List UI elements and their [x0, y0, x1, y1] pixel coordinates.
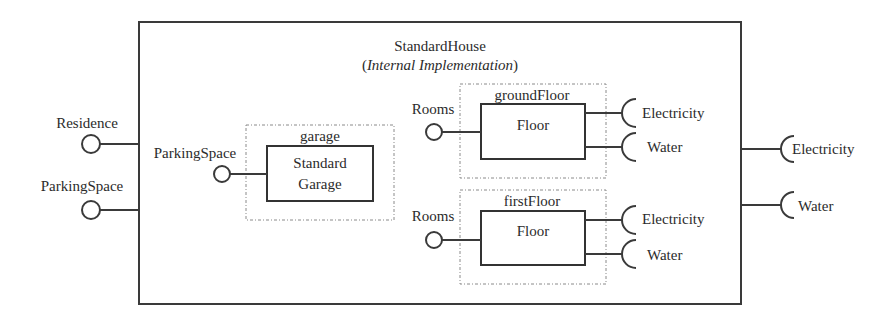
lollipop-interface-icon [426, 124, 442, 140]
port-label: ParkingSpace [41, 178, 124, 194]
socket-interface-icon [781, 192, 794, 218]
lollipop-interface-icon [82, 135, 100, 153]
socket-label: Electricity [642, 105, 705, 121]
component-name: StandardHouse [394, 38, 486, 54]
component-subtitle: (Internal Implementation) [362, 57, 518, 74]
socket-label: Electricity [792, 141, 855, 157]
socket-label: Water [647, 247, 682, 263]
part-type: Floor [517, 223, 550, 239]
external-port-residence: Residence [56, 115, 139, 153]
part-type-line1: Standard [293, 155, 347, 171]
port-label: Rooms [412, 208, 455, 224]
part-type: Floor [517, 117, 550, 133]
part-type-line2: Garage [298, 176, 342, 192]
external-socket-water: Water [741, 192, 833, 218]
lollipop-interface-icon [82, 201, 100, 219]
external-socket-electricity: Electricity [741, 136, 855, 162]
part-role: firstFloor [504, 193, 561, 209]
socket-label: Water [647, 139, 682, 155]
part-role: groundFloor [495, 87, 570, 103]
external-port-parkingspace: ParkingSpace [41, 178, 139, 219]
component-diagram: StandardHouse (Internal Implementation) … [0, 0, 892, 318]
socket-label: Water [798, 198, 833, 214]
port-label: Residence [56, 115, 118, 131]
port-label: Rooms [412, 101, 455, 117]
lollipop-interface-icon [214, 166, 230, 182]
lollipop-interface-icon [426, 232, 442, 248]
socket-label: Electricity [642, 211, 705, 227]
port-label: ParkingSpace [154, 145, 237, 161]
part-role: garage [300, 128, 340, 144]
